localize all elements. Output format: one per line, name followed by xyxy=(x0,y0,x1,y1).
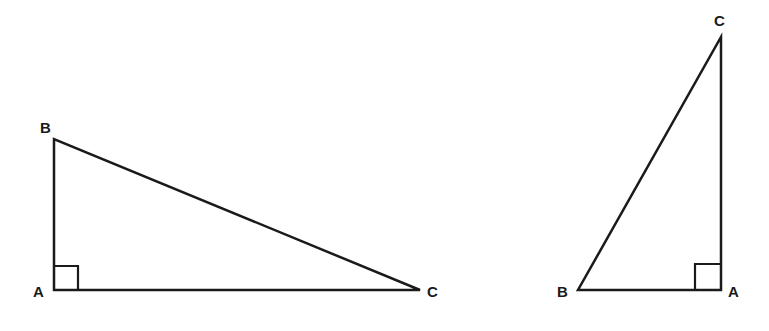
left-triangle: B A C xyxy=(33,119,438,300)
left-label-a: A xyxy=(33,283,44,300)
right-label-c: C xyxy=(714,12,725,29)
left-label-b: B xyxy=(40,119,51,136)
right-triangle-shape xyxy=(578,37,721,290)
diagram-canvas: B A C C B A xyxy=(0,0,769,331)
left-triangle-shape xyxy=(54,139,420,290)
left-label-c: C xyxy=(427,283,438,300)
left-right-angle-marker xyxy=(54,266,78,290)
right-label-b: B xyxy=(557,283,568,300)
right-right-angle-marker xyxy=(695,264,721,290)
right-triangle: C B A xyxy=(557,12,739,300)
right-label-a: A xyxy=(728,283,739,300)
